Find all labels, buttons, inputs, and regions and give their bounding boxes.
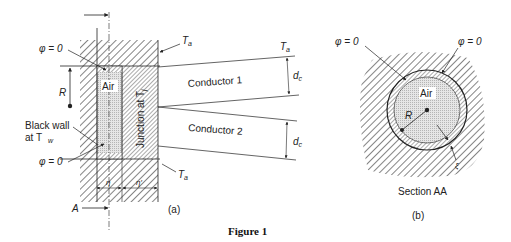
xi-label: ξ <box>455 161 459 170</box>
air-label-b: Air <box>420 88 433 99</box>
eta-label: η <box>106 178 111 187</box>
ta-bottom-label: Ta <box>178 169 188 181</box>
phi-bottom-label: φ = 0 <box>39 156 63 167</box>
dc1-label: dc <box>293 70 303 82</box>
panel-a: A R φ = 0 φ = 0 Black wall at T w Air Ju… <box>25 12 303 230</box>
conductor-1: Conductor 1 <box>158 56 299 107</box>
panel-b-label: (b) <box>412 210 424 221</box>
radius-label: R <box>59 87 66 98</box>
phi-top-label: φ = 0 <box>39 43 63 54</box>
panel-b: Air R φ = 0 φ = 0 ξ Section AA (b) <box>335 36 485 221</box>
dc2-label: dc <box>293 136 303 148</box>
black-wall-temp: at T <box>25 132 42 143</box>
figure-caption: Figure 1 <box>228 225 267 237</box>
section-title: Section AA <box>398 186 447 197</box>
air-label-a: Air <box>102 81 115 92</box>
svg-text:Conductor 2: Conductor 2 <box>188 122 244 137</box>
ta-conductor-label: Ta <box>280 41 290 53</box>
eta-prime-label: η′ <box>136 178 142 187</box>
svg-text:Conductor 1: Conductor 1 <box>187 74 243 89</box>
ta-top-label: Ta <box>182 35 192 47</box>
svg-text:w: w <box>48 137 54 144</box>
center-dot <box>68 104 72 108</box>
conductor-2: Conductor 2 <box>158 107 297 160</box>
radius-label-b: R <box>405 110 412 121</box>
phi-right-label: φ = 0 <box>458 36 482 47</box>
black-wall-label: Black wall <box>25 120 69 131</box>
air-cavity <box>97 66 122 159</box>
phi-left-label: φ = 0 <box>335 36 359 47</box>
panel-a-label: (a) <box>168 204 180 215</box>
figure-1-diagram: A R φ = 0 φ = 0 Black wall at T w Air Ju… <box>0 0 511 242</box>
section-marker-a: A <box>71 203 79 214</box>
